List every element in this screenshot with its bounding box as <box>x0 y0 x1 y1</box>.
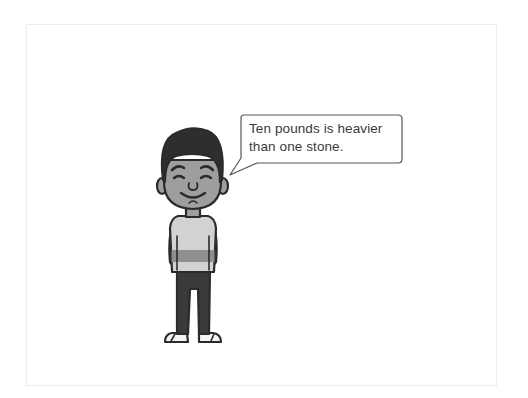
shirt-stripe <box>172 250 215 262</box>
boy-figure <box>157 128 228 342</box>
pants <box>177 270 210 334</box>
speech-line-2: than one stone. <box>249 138 399 156</box>
speech-bubble-text: Ten pounds is heavier than one stone. <box>249 120 399 156</box>
speech-line-1: Ten pounds is heavier <box>249 120 399 138</box>
illustration <box>0 0 528 398</box>
sandals <box>165 333 221 342</box>
